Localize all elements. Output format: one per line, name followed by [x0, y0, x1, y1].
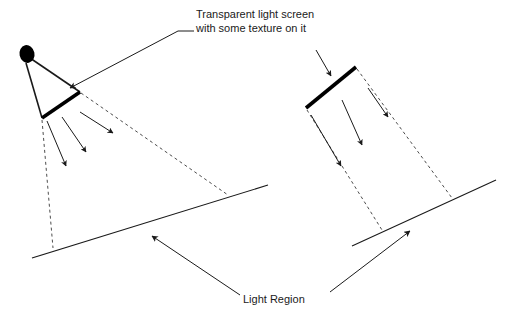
- screen-callout-leader: [70, 31, 194, 88]
- light-region-leader-right: [330, 231, 410, 292]
- ground-line-left: [32, 185, 268, 258]
- ground-line-right: [352, 180, 496, 246]
- emitted-ray-arrow: [368, 88, 388, 117]
- light-screen-right: [306, 67, 356, 108]
- beam-bound-right: [357, 69, 452, 198]
- diagram-canvas: Transparent light screen with some textu…: [0, 0, 514, 325]
- right-diagram-group: [306, 50, 496, 246]
- light-region-bound-right: [81, 93, 228, 195]
- screen-callout-line2: with some texture on it: [195, 22, 306, 34]
- screen-callout-line1: Transparent light screen: [196, 8, 314, 20]
- light-region-bound-left: [42, 120, 53, 248]
- incident-ray-arrow-right: [316, 50, 331, 76]
- emitted-ray-arrow: [62, 117, 86, 152]
- light-screen-left: [42, 92, 80, 118]
- emitted-ray-arrow: [342, 100, 362, 145]
- left-diagram-group: [18, 44, 268, 258]
- light-screen-diagram: Transparent light screen with some textu…: [0, 0, 514, 325]
- light-region-leader-left: [152, 236, 240, 295]
- emitted-ray-arrow: [47, 121, 66, 166]
- callout-leaders-group: [70, 31, 410, 295]
- cone-edge-lower: [26, 63, 42, 118]
- emitted-ray-arrow: [311, 115, 341, 166]
- emitted-ray-arrow: [80, 112, 113, 133]
- light-region-label: Light Region: [243, 293, 305, 305]
